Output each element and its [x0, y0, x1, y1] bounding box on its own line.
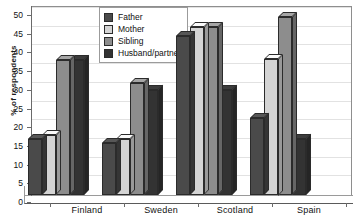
y-axis-label: 5 — [3, 179, 23, 187]
bar-side-face — [218, 22, 223, 195]
bar-side-face — [56, 130, 61, 195]
legend-item[interactable]: Father — [104, 11, 181, 23]
legend-item[interactable]: Mother — [104, 23, 181, 35]
plot-floor — [24, 195, 353, 204]
bar-side-face — [42, 134, 47, 195]
legend-item[interactable]: Husband/partner — [104, 47, 181, 59]
bar-face — [102, 143, 116, 195]
bar-sweden-father[interactable] — [102, 143, 116, 195]
y-axis-label: 10 — [3, 161, 23, 169]
y-axis-label: 45 — [3, 30, 23, 38]
bar-side-face — [204, 22, 209, 195]
plot-area — [25, 6, 345, 195]
legend-label-sibling: Sibling — [118, 36, 144, 46]
y-axis-label: 25 — [3, 105, 23, 113]
bar-face — [176, 36, 190, 195]
legend-swatch-sibling — [104, 37, 113, 46]
x-axis-tick — [346, 203, 347, 207]
bar-face — [250, 118, 264, 195]
x-axis-tick — [50, 203, 51, 207]
bar-side-face — [70, 55, 75, 195]
bar-side-face — [84, 55, 89, 195]
bar-scotland-father[interactable] — [176, 36, 190, 195]
legend-swatch-father — [104, 13, 113, 22]
bar-side-face — [264, 113, 269, 195]
x-axis-label-spain: Spain — [274, 205, 344, 215]
bar-side-face — [232, 85, 237, 195]
y-axis-label: 20 — [3, 123, 23, 131]
x-axis-label-sweden: Sweden — [126, 205, 196, 215]
bar-finland-father[interactable] — [28, 139, 42, 195]
legend-item[interactable]: Sibling — [104, 35, 181, 47]
bar-spain-father[interactable] — [250, 118, 264, 195]
bar-side-face — [278, 53, 283, 195]
y-axis-label: 40 — [3, 48, 23, 56]
bar-side-face — [158, 85, 163, 195]
bar-side-face — [190, 31, 195, 195]
bar-side-face — [306, 134, 311, 195]
x-axis-tick — [272, 203, 273, 207]
bar-series-group — [25, 6, 345, 195]
bar-face — [28, 139, 42, 195]
legend-swatch-husband-partner — [104, 49, 113, 58]
bar-side-face — [130, 134, 135, 195]
bar-side-face — [292, 12, 297, 195]
bar-side-face — [144, 78, 149, 195]
y-axis-label: 50 — [3, 11, 23, 19]
legend-label-father: Father — [118, 12, 143, 22]
y-axis-label: 15 — [3, 142, 23, 150]
legend-swatch-mother — [104, 25, 113, 34]
x-axis-tick — [124, 203, 125, 207]
y-axis-label: 0 — [3, 198, 23, 206]
y-axis-tick — [27, 202, 31, 203]
y-axis-label: 30 — [3, 86, 23, 94]
bar-chart: % of respondents 05101520253035404550 Fi… — [0, 0, 363, 223]
x-axis-label-scotland: Scotland — [200, 205, 270, 215]
legend-label-mother: Mother — [118, 24, 144, 34]
legend-label-husband-partner: Husband/partner — [118, 48, 181, 58]
y-axis-label: 35 — [3, 67, 23, 75]
x-axis-tick — [198, 203, 199, 207]
bar-side-face — [116, 137, 121, 195]
x-axis-label-finland: Finland — [52, 205, 122, 215]
legend: Father Mother Sibling Husband/partner — [99, 7, 188, 63]
